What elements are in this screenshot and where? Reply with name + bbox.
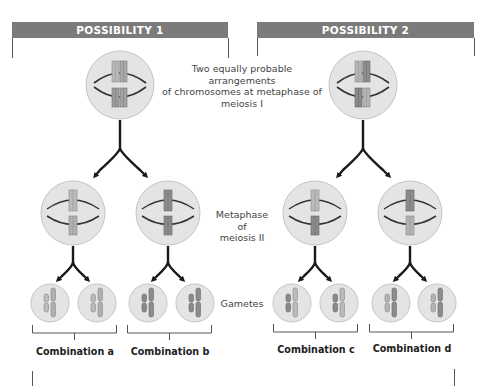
combination-brackets xyxy=(33,324,454,340)
meiosis-diagram xyxy=(0,0,484,388)
gamete-d2 xyxy=(418,284,456,322)
metaphase-2-label-line-2: meiosis II xyxy=(210,232,274,244)
gamete-b1 xyxy=(129,284,167,322)
metaphase-2-label: Metaphase of meiosis II xyxy=(210,209,274,244)
gamete-d1 xyxy=(372,284,410,322)
gametes-label-text: Gametes xyxy=(221,298,264,309)
gamete-a1 xyxy=(31,284,69,322)
combination-b-label: Combination b xyxy=(124,346,216,357)
combination-c-label: Combination c xyxy=(270,344,362,355)
metaphase-2-cell-a xyxy=(41,181,105,245)
metaphase-1-label: Two equally probable arrangements of chr… xyxy=(158,63,326,109)
gamete-c2 xyxy=(320,284,358,322)
arrows-meiosis-1 xyxy=(95,120,389,176)
metaphase-2-label-line-1: Metaphase of xyxy=(210,209,274,232)
metaphase-1-cell-possibility-2 xyxy=(329,51,397,119)
combination-a-label: Combination a xyxy=(30,346,120,357)
arrows-meiosis-2 xyxy=(58,246,425,280)
metaphase-2-cell-d xyxy=(378,181,442,245)
gamete-a2 xyxy=(78,284,116,322)
gamete-c1 xyxy=(273,284,311,322)
combination-d-label: Combination d xyxy=(366,343,458,354)
metaphase-1-cell-possibility-1 xyxy=(86,51,154,119)
metaphase-1-label-line-1: Two equally probable arrangements xyxy=(158,63,326,86)
gamete-b2 xyxy=(176,284,214,322)
gametes-label: Gametes xyxy=(215,298,269,310)
metaphase-2-cell-b xyxy=(136,181,200,245)
metaphase-1-label-line-3: meiosis I xyxy=(158,98,326,110)
metaphase-1-label-line-2: of chromosomes at metaphase of xyxy=(158,86,326,98)
metaphase-2-cell-c xyxy=(283,181,347,245)
